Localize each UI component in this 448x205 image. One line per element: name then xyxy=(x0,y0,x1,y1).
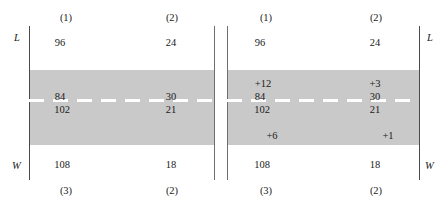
panel-right-column-header-bottom-2: (2) xyxy=(370,185,382,197)
panel-left-axis-label-bottom: W xyxy=(12,160,21,172)
figure-canvas: (1) (2) L W 96 24 84 30 102 21 108 18 (3… xyxy=(0,0,448,205)
panel-left-cell-bottom-2: 18 xyxy=(166,159,177,171)
panel-left-cell-mid-upper-2: 30 xyxy=(166,91,177,103)
panel-right-cell-mid-upper-2: 30 xyxy=(370,91,381,103)
panel-left-cell-mid-lower-1: 102 xyxy=(54,104,70,116)
panel-right-axis-label-top: L xyxy=(427,32,433,44)
panel-right-cell-bottom-1: 108 xyxy=(254,159,270,171)
panel-left-column-header-top-2: (2) xyxy=(166,12,178,24)
panel-right-cell-lower-adjust-2: +1 xyxy=(382,130,393,142)
panel-left-vertical-rule-left xyxy=(29,26,30,180)
panel-left-column-header-bottom-1: (3) xyxy=(60,185,72,197)
panel-left-cell-top-2: 24 xyxy=(166,37,177,49)
panel-right-cell-upper-adjust-1: +12 xyxy=(255,78,271,90)
panel-right-column-header-top-1: (1) xyxy=(260,12,272,24)
panel-left-axis-label-top: L xyxy=(14,32,20,44)
panel-left-column-header-bottom-2: (2) xyxy=(166,185,178,197)
panel-left-cell-bottom-1: 108 xyxy=(54,159,70,171)
panel-right-vertical-rule-right xyxy=(419,26,420,180)
panel-right-cell-mid-lower-2: 21 xyxy=(370,104,381,116)
panel-left-cell-top-1: 96 xyxy=(55,37,66,49)
panel-right-cell-bottom-2: 18 xyxy=(370,159,381,171)
panel-left-vertical-rule-right xyxy=(214,26,215,180)
panel-right-axis-label-bottom: W xyxy=(425,160,434,172)
panel-right-cell-top-2: 24 xyxy=(370,37,381,49)
panel-right-column-header-bottom-1: (3) xyxy=(260,185,272,197)
panel-right-cell-lower-adjust-1: +6 xyxy=(266,130,277,142)
panel-right-vertical-rule-left xyxy=(227,26,228,180)
panel-left-cell-mid-upper-1: 84 xyxy=(55,91,66,103)
panel-right-cell-mid-upper-1: 84 xyxy=(255,91,266,103)
panel-right-column-header-top-2: (2) xyxy=(370,12,382,24)
panel-right: (1) (2) L W 96 24 +12 +3 84 30 102 21 +6… xyxy=(224,0,448,205)
panel-left: (1) (2) L W 96 24 84 30 102 21 108 18 (3… xyxy=(0,0,224,205)
panel-left-cell-mid-lower-2: 21 xyxy=(166,104,177,116)
panel-right-cell-top-1: 96 xyxy=(255,37,266,49)
panel-right-cell-upper-adjust-2: +3 xyxy=(369,78,380,90)
panel-left-column-header-top-1: (1) xyxy=(60,12,72,24)
panel-right-cell-mid-lower-1: 102 xyxy=(254,104,270,116)
